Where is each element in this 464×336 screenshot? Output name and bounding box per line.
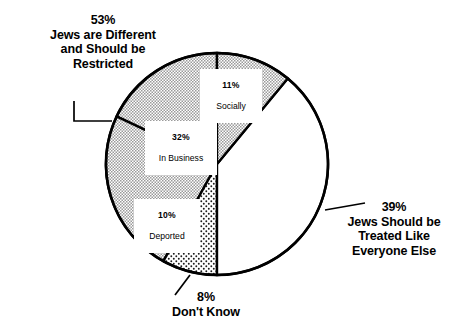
callout-restricted: 53% Jews are Different and Should be Res… — [8, 13, 198, 71]
slice-label-deported-name: Deported — [137, 231, 197, 241]
callout-treated-equally: 39% Jews Should be Treated Like Everyone… — [326, 200, 462, 258]
slice-label-socially-percent: 11% — [203, 80, 259, 90]
slice-label-in-business-percent: 32% — [148, 132, 214, 142]
callout-dont-know: 8% Don't Know — [136, 290, 276, 319]
slice-label-socially: 11% Socially — [200, 69, 262, 123]
pie-chart-figure: 53% Jews are Different and Should be Res… — [0, 0, 464, 336]
slice-label-in-business-name: In Business — [148, 153, 214, 163]
slice-label-deported: 10% Deported — [134, 199, 200, 253]
slice-label-in-business: 32% In Business — [145, 121, 217, 175]
slice-label-socially-name: Socially — [203, 101, 259, 111]
leader-line-restricted — [74, 101, 112, 121]
slice-label-deported-percent: 10% — [137, 210, 197, 220]
